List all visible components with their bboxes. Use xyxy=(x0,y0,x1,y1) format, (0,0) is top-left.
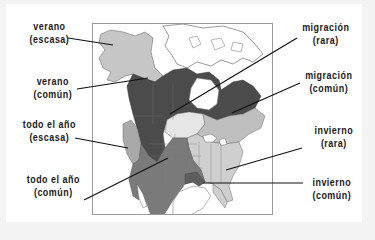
label-winter-rare: invierno (rara) xyxy=(314,124,353,150)
label-summer-common: verano (común) xyxy=(33,75,72,101)
label-summer-scarce: verano (escasa) xyxy=(30,20,70,46)
label-winter-common: invierno (común) xyxy=(312,176,351,202)
label-year-round-common: todo el año (común) xyxy=(27,173,80,199)
label-migration-rare: migración (rara) xyxy=(302,21,349,47)
range-map xyxy=(92,23,273,215)
label-year-round-scarce: todo el año (escasa) xyxy=(23,118,76,144)
north-america-map xyxy=(93,24,273,215)
label-migration-common: migración (común) xyxy=(305,69,352,95)
region-summer-scarce xyxy=(99,30,163,82)
arctic-islands xyxy=(163,24,263,68)
